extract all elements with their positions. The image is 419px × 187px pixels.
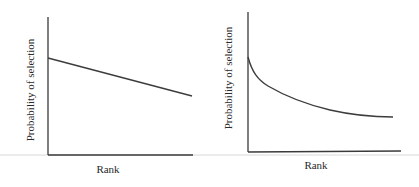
left-linear-line — [48, 58, 192, 96]
right-chart: Rank Probability of selection — [222, 12, 401, 171]
right-y-label: Probability of selection — [222, 26, 234, 129]
right-convex-curve — [248, 57, 393, 117]
figure: Rank Probability of selection Rank Proba… — [0, 0, 419, 187]
right-x-label: Rank — [304, 159, 328, 171]
right-x-axis — [248, 151, 401, 152]
left-y-label: Probability of selection — [24, 38, 36, 141]
left-chart: Rank Probability of selection — [24, 17, 193, 175]
left-x-label: Rank — [96, 163, 120, 175]
